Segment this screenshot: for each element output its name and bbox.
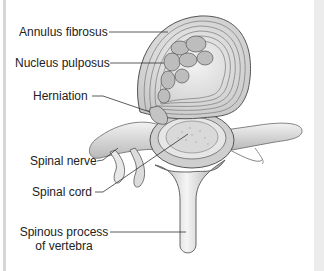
label-spinous-process: Spinous process of vertebra (19, 225, 109, 253)
label-spinous-process-line1: Spinous process (19, 225, 109, 239)
label-spinal-nerve: Spinal nerve (30, 154, 97, 168)
spinal-cord (166, 121, 218, 153)
label-annulus-fibrosus: Annulus fibrosus (19, 25, 108, 39)
label-herniation: Herniation (33, 89, 88, 103)
label-spinal-cord: Spinal cord (32, 185, 92, 199)
label-nucleus-pulposus: Nucleus pulposus (15, 56, 110, 70)
label-spinous-process-line2: of vertebra (19, 239, 109, 253)
spinous-process (155, 160, 225, 253)
annulus-fibrosus (138, 16, 251, 119)
